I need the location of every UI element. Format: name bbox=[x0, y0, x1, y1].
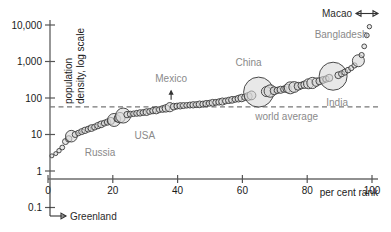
x-tick-label-1: 20 bbox=[107, 185, 119, 196]
chart-svg: 10,0001,0001001010.1 020406080100 popula… bbox=[0, 0, 391, 232]
x-axis-title: per cent rank bbox=[320, 187, 379, 198]
y-axis-title: population density, log scale bbox=[63, 28, 86, 104]
macao-label: Macao bbox=[322, 8, 352, 19]
data-point bbox=[367, 24, 371, 28]
point-label-china: China bbox=[236, 57, 263, 68]
point-label-india: India bbox=[326, 97, 348, 108]
data-bubbles bbox=[50, 24, 372, 157]
world-average-label: world average bbox=[254, 111, 318, 122]
y-tick-label-4: 1 bbox=[36, 166, 42, 177]
data-point bbox=[50, 154, 54, 158]
point-label-mexico: Mexico bbox=[155, 73, 187, 84]
y-tick-label-3: 10 bbox=[31, 129, 43, 140]
x-tick-label-3: 60 bbox=[237, 185, 249, 196]
y-axis-title-line2: density, log scale bbox=[75, 28, 86, 104]
macao-annotation: Macao bbox=[322, 8, 378, 19]
data-point bbox=[359, 52, 364, 57]
y-tick-label-1: 1,000 bbox=[17, 56, 42, 67]
arrow-up-icon bbox=[169, 90, 174, 95]
x-tick-label-4: 80 bbox=[302, 185, 314, 196]
data-point bbox=[362, 44, 367, 49]
y-tick-label-5: 0.1 bbox=[28, 202, 42, 213]
y-tick-label-2: 100 bbox=[25, 93, 42, 104]
x-tick-label-2: 40 bbox=[172, 185, 184, 196]
y-tick-label-0: 10,000 bbox=[11, 20, 42, 31]
greenland-label: Greenland bbox=[70, 211, 117, 222]
data-point bbox=[60, 145, 65, 150]
population-density-chart: 10,0001,0001001010.1 020406080100 popula… bbox=[0, 0, 391, 232]
point-label-russia: Russia bbox=[85, 147, 116, 158]
y-axis-title-line1: population bbox=[63, 58, 74, 104]
point-labels: RussiaUSAMexicoChinaIndiaBangladesh bbox=[85, 29, 368, 158]
point-label-usa: USA bbox=[135, 130, 156, 141]
point-label-bangladesh: Bangladesh bbox=[315, 29, 368, 40]
